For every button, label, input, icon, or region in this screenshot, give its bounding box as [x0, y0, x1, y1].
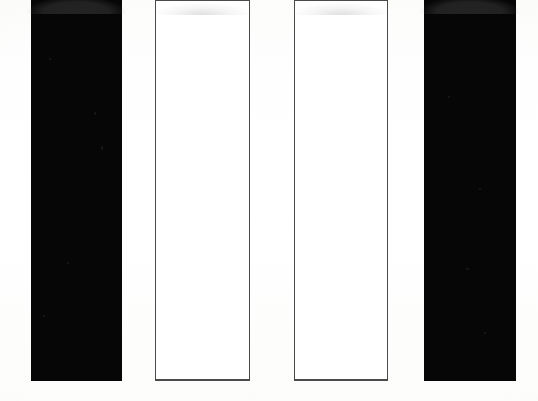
- noise-speck: [484, 332, 486, 334]
- bar-1-top-smudge: [25, 0, 128, 14]
- bar-2[interactable]: [155, 0, 250, 381]
- noise-speck: [67, 262, 69, 264]
- noise-speck: [466, 268, 469, 270]
- bar-4[interactable]: [424, 0, 516, 381]
- bar-4-top-smudge: [418, 0, 522, 14]
- noise-speck: [94, 112, 96, 115]
- bar-2-top-smudge: [150, 0, 255, 15]
- bar-1[interactable]: [31, 0, 122, 381]
- noise-speck: [448, 96, 450, 98]
- bar-chart-figure: [0, 0, 538, 401]
- noise-speck: [479, 188, 481, 190]
- noise-speck: [43, 315, 45, 317]
- plot-area: [0, 0, 538, 401]
- noise-speck: [49, 58, 51, 60]
- noise-speck: [101, 146, 103, 150]
- bar-3-top-smudge: [289, 0, 393, 15]
- bar-3[interactable]: [294, 0, 388, 381]
